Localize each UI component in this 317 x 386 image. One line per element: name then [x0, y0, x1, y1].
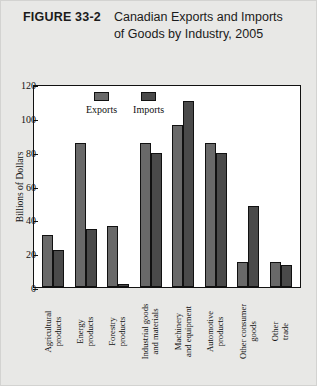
figure-title: Canadian Exports and Imports of Goods by…	[114, 9, 289, 43]
chart-legend: ExportsImports	[86, 92, 164, 115]
legend-item-imports: Imports	[133, 92, 164, 115]
x-axis-label: Energyproducts	[74, 290, 98, 382]
x-axis-label: Othertrade	[269, 290, 293, 382]
legend-label: Imports	[133, 104, 164, 115]
x-axis-label: Industrial goodsand materials	[139, 290, 163, 382]
x-axis-labels: AgriculturalproductsEnergyproductsForest…	[33, 290, 301, 382]
y-axis-tick-label: 60	[2, 182, 36, 193]
bar-exports	[140, 143, 151, 287]
legend-label: Exports	[86, 104, 117, 115]
figure-number: FIGURE 33-2	[23, 9, 101, 24]
x-axis-label-text: Automotiveproducts	[206, 311, 225, 352]
bar-groups	[34, 86, 300, 287]
figure-card: FIGURE 33-2 Canadian Exports and Imports…	[0, 0, 317, 386]
x-axis-label-text: Industrial goodsand materials	[141, 304, 160, 360]
x-axis-label-text: Machineryand equipment	[174, 306, 193, 357]
bar-group	[75, 143, 97, 287]
bar-imports	[151, 153, 162, 287]
bar-exports	[42, 235, 53, 287]
x-axis-label: Machineryand equipment	[171, 290, 195, 382]
legend-swatch-imports	[141, 92, 156, 101]
bar-imports	[281, 265, 292, 287]
bar-imports	[216, 153, 227, 287]
x-axis-label-text: Agriculturalproducts	[44, 311, 63, 353]
bar-imports	[53, 250, 64, 287]
x-axis-label-text: Othertrade	[271, 322, 290, 342]
bar-group	[172, 101, 194, 287]
x-axis-label-text: Forestryproducts	[109, 317, 128, 347]
bar-exports	[270, 262, 281, 287]
bar-exports	[107, 226, 118, 287]
plot-area: 020406080100120 ExportsImports	[33, 85, 301, 288]
bar-imports	[183, 101, 194, 287]
x-axis-label: Agriculturalproducts	[41, 290, 65, 382]
y-axis-tick-label: 100	[2, 114, 36, 125]
bar-imports	[86, 229, 97, 287]
bar-exports	[237, 262, 248, 287]
bar-group	[42, 235, 64, 287]
bar-group	[237, 206, 259, 287]
legend-swatch-exports	[94, 92, 109, 101]
y-axis-tick-label: 40	[2, 215, 36, 226]
x-axis-label: Forestryproducts	[106, 290, 130, 382]
figure-header: FIGURE 33-2 Canadian Exports and Imports…	[1, 9, 316, 43]
y-axis-tick-label: 20	[2, 249, 36, 260]
bar-exports	[75, 143, 86, 287]
x-axis-label-text: Other consumergoods	[239, 304, 258, 359]
bar-exports	[205, 143, 216, 287]
bar-exports	[172, 125, 183, 287]
bar-group	[205, 143, 227, 287]
legend-item-exports: Exports	[86, 92, 117, 115]
y-axis-tick-label: 0	[2, 283, 36, 294]
x-axis-label-text: Energyproducts	[76, 317, 95, 347]
plot-inner: 020406080100120 ExportsImports	[34, 86, 300, 287]
bar-group	[140, 143, 162, 287]
bar-imports	[248, 206, 259, 287]
y-axis-tick-label: 80	[2, 148, 36, 159]
x-axis-label: Other consumergoods	[236, 290, 260, 382]
bar-group	[107, 226, 129, 287]
y-axis-tick-label: 120	[2, 80, 36, 91]
bar-group	[270, 262, 292, 287]
bar-imports	[118, 284, 129, 287]
x-axis-label: Automotiveproducts	[204, 290, 228, 382]
